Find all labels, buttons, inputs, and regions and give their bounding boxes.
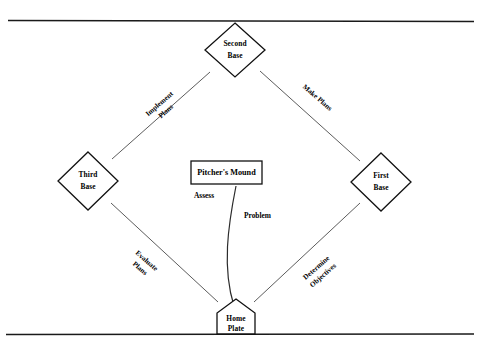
pitchers-mound-label: Pitcher's Mound	[197, 168, 256, 177]
first-base-label-line2: Base	[373, 183, 389, 192]
first-base-label-line1: First	[373, 171, 389, 180]
node-second-base[interactable]: Second Base	[205, 23, 265, 77]
node-pitchers-mound[interactable]: Pitcher's Mound	[191, 161, 262, 184]
edge-second-to-first	[260, 71, 360, 161]
edge-label-determine-objectives: Determine Objectives	[302, 254, 338, 289]
third-base-label-line2: Base	[80, 182, 96, 191]
make-plans-line1: Make Plans	[301, 83, 334, 113]
assess-label: Assess	[194, 191, 214, 200]
node-first-base[interactable]: First Base	[351, 153, 411, 211]
second-base-label-line2: Base	[227, 51, 243, 60]
node-home-plate[interactable]: Home Plate	[217, 299, 255, 334]
curve-mound-to-home-plate	[227, 186, 236, 306]
edge-label-make-plans: Make Plans	[301, 83, 334, 113]
second-base-label-line1: Second	[223, 39, 247, 48]
node-third-base[interactable]: Third Base	[58, 152, 118, 210]
problem-label: Problem	[244, 211, 272, 220]
baseball-diamond-diagram: Second Base Third Base First Base Home P…	[0, 0, 498, 348]
edge-label-evaluate-plans: Evaluate Plans	[127, 249, 159, 280]
diagram-page: Second Base Third Base First Base Home P…	[0, 0, 498, 348]
top-horizontal-rule	[8, 21, 474, 22]
third-base-label-line1: Third	[79, 170, 99, 179]
home-plate-label-line1: Home	[226, 314, 246, 323]
edge-home-to-third	[111, 203, 218, 302]
edge-label-implement-plans: Implement Plans	[144, 90, 182, 126]
home-plate-label-line2: Plate	[228, 324, 245, 333]
